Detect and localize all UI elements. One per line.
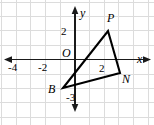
y-axis-arrow-down bbox=[72, 104, 79, 112]
graph-canvas: x y O -4 -2 2 2 -3 P N B bbox=[0, 0, 154, 125]
vertex-label-p: P bbox=[106, 11, 115, 25]
origin-label: O bbox=[62, 46, 71, 60]
y-tick-label-neg3: -3 bbox=[66, 91, 76, 103]
vertex-label-n: N bbox=[121, 72, 131, 86]
x-axis-arrow-right bbox=[143, 56, 151, 63]
y-axis-label: y bbox=[79, 6, 86, 20]
y-tick-label-2: 2 bbox=[61, 25, 67, 37]
x-tick-label-neg4: -4 bbox=[8, 61, 18, 73]
coordinate-plane-figure: x y O -4 -2 2 2 -3 P N B bbox=[0, 0, 154, 125]
x-tick-label-neg2: -2 bbox=[38, 61, 47, 73]
x-axis bbox=[4, 56, 151, 63]
y-axis-arrow-up bbox=[72, 6, 79, 14]
x-axis-label: x bbox=[136, 52, 143, 66]
vertex-label-b: B bbox=[48, 82, 56, 96]
x-tick-label-2: 2 bbox=[99, 62, 105, 74]
